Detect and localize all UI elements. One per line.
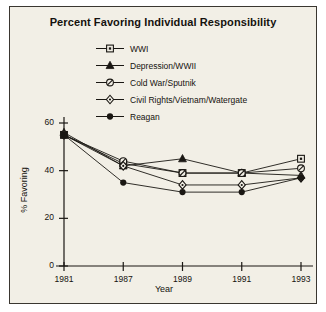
data-point-open-diamond <box>60 131 67 140</box>
data-point-filled-circle <box>120 179 126 185</box>
series-line <box>64 135 301 173</box>
data-point-slashed-circle <box>61 132 68 139</box>
data-point-filled-triangle <box>60 128 68 135</box>
x-tick-label: 1991 <box>222 274 262 284</box>
series-line <box>64 135 301 185</box>
data-point-slashed-circle <box>179 170 186 177</box>
legend-item[interactable]: WWI <box>96 40 311 57</box>
legend-marker-open-diamond-icon <box>96 92 124 107</box>
data-point-open-diamond <box>179 181 186 190</box>
data-point-filled-circle <box>107 113 113 119</box>
legend-item[interactable]: Depression/WWII <box>96 57 311 74</box>
legend-item[interactable]: Reagan <box>96 108 311 125</box>
legend-marker-filled-circle-icon <box>96 109 124 124</box>
x-tick-label: 1989 <box>163 274 203 284</box>
legend-marker-slashed-circle-icon <box>96 75 124 90</box>
data-point-slashed-circle <box>238 170 245 177</box>
data-point-open-square <box>238 170 245 177</box>
x-tick-label: 1987 <box>103 274 143 284</box>
legend-item[interactable]: Cold War/Sputnik <box>96 74 311 91</box>
series-line <box>64 135 301 173</box>
legend-label: WWI <box>130 44 148 54</box>
data-point-open-square <box>298 155 305 162</box>
data-point-filled-triangle <box>106 61 114 68</box>
chart-title: Percent Favoring Individual Responsibili… <box>10 16 316 28</box>
data-point-slashed-circle <box>298 165 305 172</box>
data-point-slashed-circle <box>120 158 127 165</box>
data-point-open-diamond <box>238 181 245 190</box>
data-point-filled-triangle <box>179 155 187 162</box>
data-point-filled-circle <box>298 175 304 181</box>
chart-figure: Percent Favoring Individual Responsibili… <box>9 6 317 304</box>
series-line <box>64 135 301 192</box>
legend-label: Cold War/Sputnik <box>130 78 196 88</box>
data-point-open-diamond <box>297 174 304 183</box>
data-point-filled-circle <box>61 132 67 138</box>
y-tick-label: 60 <box>28 117 54 127</box>
legend-marker-filled-triangle-icon <box>96 58 124 73</box>
legend-item[interactable]: Civil Rights/Vietnam/Watergate <box>96 91 311 108</box>
x-tick-label: 1981 <box>44 274 84 284</box>
x-axis-title: Year <box>10 284 318 294</box>
legend-label: Depression/WWII <box>130 61 196 71</box>
data-point-open-square <box>179 170 186 177</box>
y-tick-label: 0 <box>28 260 54 270</box>
legend-label: Reagan <box>130 112 160 122</box>
chart-legend: WWIDepression/WWIICold War/SputnikCivil … <box>96 40 311 125</box>
data-point-open-square <box>120 160 127 167</box>
data-point-filled-triangle <box>297 171 305 178</box>
series-line <box>64 133 301 176</box>
y-tick-label: 40 <box>28 165 54 175</box>
x-tick-label: 1993 <box>281 274 321 284</box>
data-point-open-diamond <box>120 162 127 171</box>
data-point-open-square <box>107 45 114 52</box>
data-point-filled-circle <box>239 189 245 195</box>
y-tick-label: 20 <box>28 212 54 222</box>
legend-marker-open-square-icon <box>96 41 124 56</box>
data-point-filled-triangle <box>238 169 246 176</box>
data-point-filled-circle <box>179 189 185 195</box>
legend-label: Civil Rights/Vietnam/Watergate <box>130 95 247 105</box>
data-point-filled-triangle <box>119 162 127 169</box>
data-point-open-square <box>61 132 68 139</box>
data-point-slashed-circle <box>107 79 114 86</box>
data-point-open-diamond <box>106 95 113 104</box>
